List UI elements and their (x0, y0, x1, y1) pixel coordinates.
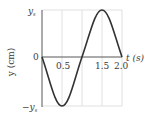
y-bottom-label: −ys (22, 102, 38, 113)
y-top-label: ys (27, 6, 36, 17)
x-tick-0-5: 0.5 (56, 61, 71, 71)
x-axis-title: t (s) (126, 53, 145, 63)
sine-wave-chart: ys 0 −ys 0.5 1.5 2.0 t (s) y (cm) (0, 0, 160, 118)
x-tick-1-5: 1.5 (95, 61, 110, 71)
zero-label: 0 (33, 52, 39, 62)
y-axis-title: y (cm) (6, 48, 16, 78)
